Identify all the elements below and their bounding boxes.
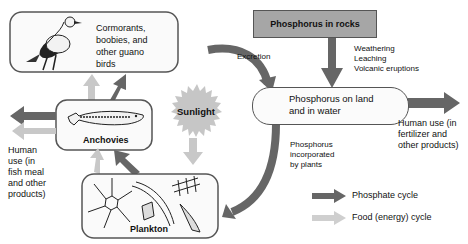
birds-label: Cormorants, boobies, and other guano bir… (96, 22, 148, 70)
legend-food-label: Food (energy) cycle (352, 212, 432, 223)
phosphorus-cycle-diagram: Cormorants, boobies, and other guano bir… (0, 0, 468, 244)
incorporated-label: Phosphorus incorporated by plants (290, 140, 334, 170)
fishmeal-use-line: products) (8, 189, 46, 200)
fishmeal-use-label: Human use (in fish meal and other produc… (8, 145, 46, 200)
plankton-to-anchovies-phosphate-arrow (114, 150, 140, 176)
rocks-label: Phosphorus in rocks (270, 19, 360, 29)
fishmeal-use-line: Human (8, 145, 46, 156)
fertilizer-use-line: fertilizer and (398, 129, 459, 140)
phosphate-cycle-arrow-icon (312, 188, 348, 204)
plankton-to-anchovies-food-arrow (90, 148, 104, 174)
rocks-box: Phosphorus in rocks (253, 10, 377, 38)
sun-to-plankton-arrow (183, 138, 203, 165)
anchovies-to-birds-phosphate-arrow (110, 74, 126, 102)
weathering-line: Weathering (354, 44, 419, 54)
land-water-label: Phosphorus on land and in water (289, 93, 374, 117)
land-water-line: and in water (289, 105, 374, 117)
legend-phosphate-label: Phosphate cycle (352, 190, 418, 201)
rocks-to-land-arrow (321, 36, 343, 88)
birds-label-line: Cormorants, (96, 22, 148, 34)
birds-label-line: birds (96, 58, 148, 70)
incorporated-line: Phosphorus (290, 140, 334, 150)
land-water-line: Phosphorus on land (289, 93, 374, 105)
birds-label-line: boobies, and (96, 34, 148, 46)
fertilizer-use-line: Human use (in (398, 118, 459, 129)
weathering-label: Weathering Leaching Volcanic eruptions (354, 44, 419, 74)
incorporated-arrow (232, 124, 276, 212)
fertilizer-use-line: other products) (398, 140, 459, 151)
plankton-label: Plankton (130, 224, 168, 235)
land-water-box: Phosphorus on land and in water (252, 87, 409, 125)
anchovies-label: Anchovies (83, 135, 129, 146)
anchovies-to-birds-food-arrow (83, 74, 100, 102)
volcanic-line: Volcanic eruptions (354, 64, 419, 74)
fishmeal-use-food-arrow (12, 122, 56, 140)
fishmeal-use-line: use (in (8, 156, 46, 167)
fishmeal-use-line: fish meal (8, 167, 46, 178)
food-cycle-arrow-icon (312, 210, 348, 226)
legend: Phosphate cycle Food (energy) cycle (312, 188, 462, 238)
fishmeal-use-line: and other (8, 178, 46, 189)
fertilizer-use-label: Human use (in fertilizer and other produ… (398, 118, 459, 151)
birds-label-line: other guano (96, 46, 148, 58)
birds-box (10, 12, 178, 72)
leaching-line: Leaching (354, 54, 419, 64)
fishmeal-use-phosphate-arrow (10, 106, 56, 126)
sunlight-label: Sunlight (177, 106, 215, 117)
incorporated-line: by plants (290, 160, 334, 170)
excretion-label: Excretion (237, 52, 270, 62)
incorporated-line: incorporated (290, 150, 334, 160)
fertilizer-use-arrow (407, 92, 460, 114)
